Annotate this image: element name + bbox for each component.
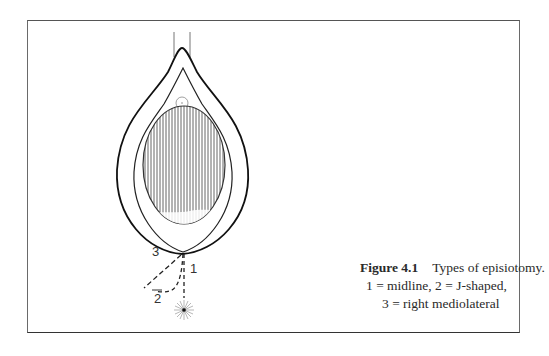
caption-line-1: Figure 4.1Types of episiotomy.: [360, 259, 545, 277]
label-1: 1: [190, 261, 197, 276]
label-3: 3: [152, 244, 159, 259]
label-2: 2: [154, 291, 161, 306]
figure-title: Types of episiotomy.: [432, 260, 545, 275]
incision-j-shaped: [155, 254, 183, 292]
figure-label: Figure 4.1: [360, 260, 418, 275]
anus-center: [182, 308, 186, 312]
caption-line-2: 1 = midline, 2 = J-shaped,: [366, 277, 507, 295]
incision-right-mediolateral: [144, 255, 181, 288]
caption-line-3: 3 = right mediolateral: [382, 295, 499, 313]
urethra-dot: [181, 102, 183, 104]
fetal-head: [143, 106, 225, 224]
